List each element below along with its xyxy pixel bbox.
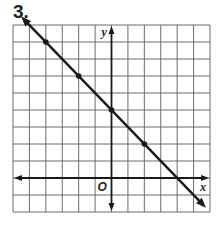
x-axis-label: x bbox=[199, 180, 206, 194]
y-axis-down-arrow-icon bbox=[109, 203, 115, 211]
axes bbox=[14, 26, 209, 211]
data-point bbox=[109, 107, 115, 113]
y-axis-label: y bbox=[100, 25, 108, 39]
plotted-line bbox=[21, 17, 206, 208]
graph-line bbox=[25, 21, 201, 204]
origin-label: O bbox=[98, 180, 108, 194]
coordinate-graph: yxO bbox=[0, 0, 223, 226]
x-axis-left-arrow-icon bbox=[14, 175, 22, 181]
data-point bbox=[43, 39, 49, 45]
data-point bbox=[76, 73, 82, 79]
y-axis-up-arrow-icon bbox=[109, 26, 115, 34]
data-point bbox=[142, 141, 148, 147]
